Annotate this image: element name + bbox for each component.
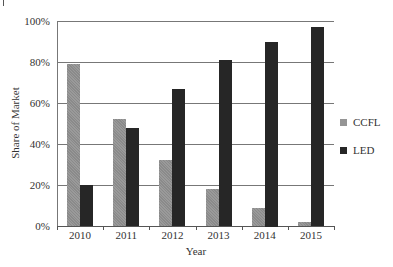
bar-led-2010: [80, 185, 93, 226]
bar-ccfl-2011: [113, 119, 126, 226]
x-tick-label: 2014: [254, 229, 276, 241]
y-tick-label: 80%: [18, 56, 50, 68]
bar-led-2012: [172, 89, 185, 226]
x-tick-label: 2010: [69, 229, 91, 241]
y-tick-label: 40%: [18, 138, 50, 150]
bar-led-2014: [265, 42, 278, 227]
x-tick-label: 2013: [208, 229, 230, 241]
legend-item-led: LED: [340, 144, 374, 156]
gridline: [57, 62, 334, 63]
legend-swatch: [340, 119, 347, 126]
gridline: [57, 185, 334, 186]
x-axis-label: Year: [186, 245, 206, 257]
x-tick-label: 2012: [161, 229, 183, 241]
bar-ccfl-2015: [298, 222, 311, 226]
y-axis-label: Share of Market: [9, 73, 21, 173]
bar-ccfl-2013: [206, 189, 219, 226]
x-tick-mark: [57, 226, 58, 230]
bar-chart: Share of Market Year CCFLLED 0%20%40%60%…: [0, 0, 393, 267]
bar-ccfl-2014: [252, 208, 265, 226]
bar-led-2015: [311, 27, 324, 226]
gridline: [57, 144, 334, 145]
bar-led-2013: [219, 60, 232, 226]
y-tick-label: 60%: [18, 97, 50, 109]
gridline: [57, 103, 334, 104]
gridline: [57, 21, 334, 22]
y-tick-label: 100%: [18, 15, 50, 27]
bar-led-2011: [126, 128, 139, 226]
x-tick-mark: [242, 226, 243, 230]
x-tick-mark: [103, 226, 104, 230]
legend-label: LED: [353, 144, 374, 156]
y-tick-label: 0%: [18, 220, 50, 232]
bar-ccfl-2012: [159, 160, 172, 226]
x-tick-mark: [149, 226, 150, 230]
y-tick-label: 20%: [18, 179, 50, 191]
x-tick-mark: [196, 226, 197, 230]
legend-label: CCFL: [353, 116, 381, 128]
x-tick-label: 2015: [300, 229, 322, 241]
bar-ccfl-2010: [67, 64, 80, 226]
legend-swatch: [340, 147, 347, 154]
y-axis: [57, 21, 58, 226]
legend-item-ccfl: CCFL: [340, 116, 381, 128]
x-tick-mark: [334, 226, 335, 230]
x-tick-mark: [288, 226, 289, 230]
x-tick-label: 2011: [115, 229, 137, 241]
